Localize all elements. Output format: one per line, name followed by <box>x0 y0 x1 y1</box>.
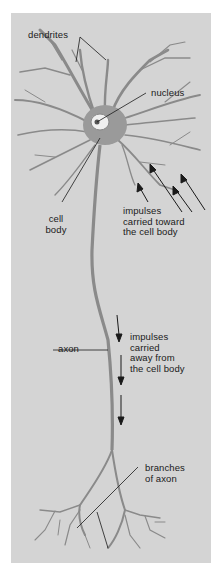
label-impulses-away-line3: away from <box>130 353 185 364</box>
label-axon: axon <box>58 344 79 355</box>
neuron-illustration <box>0 0 222 579</box>
label-nucleus: nucleus <box>151 88 184 99</box>
label-impulses-away-line1: impulses <box>130 332 185 343</box>
label-impulses-away: impulses carried away from the cell body <box>130 332 185 374</box>
label-branches-line2: of axon <box>145 474 185 485</box>
label-branches-of-axon: branches of axon <box>145 463 185 484</box>
label-cell-body: cell body <box>36 214 76 235</box>
axon-drawing <box>92 145 112 450</box>
label-branches-line1: branches <box>145 463 185 474</box>
label-impulses-away-line4: the cell body <box>130 364 185 375</box>
label-impulses-toward-line1: impulses <box>123 206 185 217</box>
label-dendrites: dendrites <box>28 30 68 41</box>
label-cell-body-line1: cell <box>36 214 76 225</box>
label-cell-body-line2: body <box>36 225 76 236</box>
arrows-away-from-cell-body <box>116 315 124 425</box>
label-impulses-toward: impulses carried toward the cell body <box>123 206 185 238</box>
label-impulses-toward-line3: the cell body <box>123 227 185 238</box>
cell-body-drawing <box>83 105 127 145</box>
